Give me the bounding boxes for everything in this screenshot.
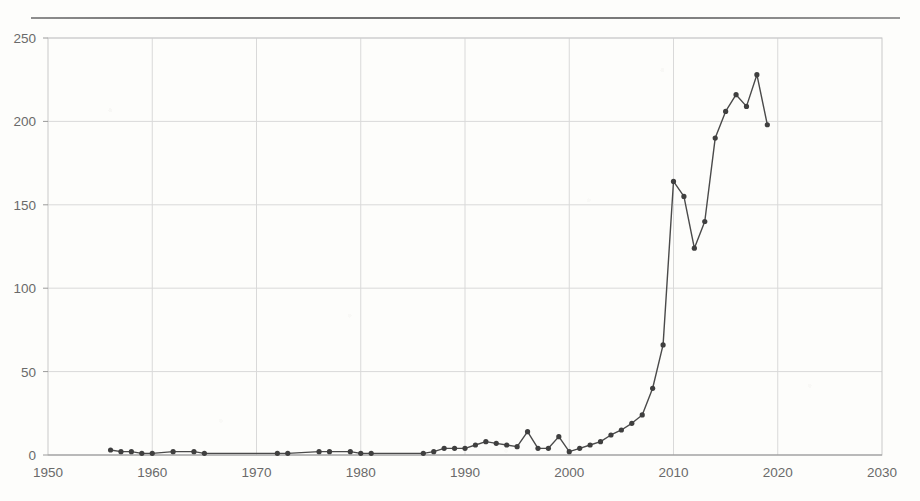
- data-point-marker: [285, 451, 290, 456]
- data-point-marker: [129, 449, 134, 454]
- data-point-marker: [577, 446, 582, 451]
- y-tick-label: 150: [13, 198, 36, 213]
- data-point-marker: [483, 439, 488, 444]
- x-tick-label: 1970: [241, 465, 271, 480]
- x-tick-label: 1950: [33, 465, 63, 480]
- data-point-marker: [462, 446, 467, 451]
- data-point-marker: [733, 92, 738, 97]
- data-point-marker: [671, 179, 676, 184]
- line-chart-figure: 050100150200250 195019601970198019902000…: [0, 0, 920, 501]
- y-tick-label: 0: [28, 448, 36, 463]
- data-point-marker: [316, 449, 321, 454]
- data-point-marker: [692, 246, 697, 251]
- data-point-marker: [556, 434, 561, 439]
- data-point-marker: [473, 442, 478, 447]
- y-tick-label: 100: [13, 281, 36, 296]
- x-tick-label: 1960: [137, 465, 167, 480]
- x-tick-label: 1980: [346, 465, 376, 480]
- x-tick-label: 2010: [658, 465, 688, 480]
- data-point-marker: [442, 446, 447, 451]
- data-point-marker: [619, 427, 624, 432]
- y-axis-tick-labels: 050100150200250: [13, 31, 48, 463]
- data-point-marker: [150, 451, 155, 456]
- data-point-marker: [515, 444, 520, 449]
- y-tick-label: 50: [21, 365, 36, 380]
- data-point-marker: [118, 449, 123, 454]
- data-point-marker: [754, 72, 759, 77]
- data-point-marker: [452, 446, 457, 451]
- x-tick-label: 2000: [554, 465, 584, 480]
- data-point-marker: [660, 342, 665, 347]
- data-point-marker: [640, 412, 645, 417]
- x-tick-label: 2020: [763, 465, 793, 480]
- data-point-marker: [431, 449, 436, 454]
- data-point-markers: [108, 72, 770, 456]
- y-tick-label: 200: [13, 114, 36, 129]
- data-point-marker: [608, 432, 613, 437]
- data-point-marker: [588, 442, 593, 447]
- data-point-marker: [421, 451, 426, 456]
- chart-canvas: 050100150200250 195019601970198019902000…: [0, 0, 920, 501]
- data-point-marker: [525, 429, 530, 434]
- data-point-marker: [504, 442, 509, 447]
- data-point-marker: [681, 194, 686, 199]
- x-tick-label: 2030: [867, 465, 897, 480]
- header-divider-rule: [31, 17, 900, 19]
- data-point-marker: [327, 449, 332, 454]
- data-point-marker: [629, 421, 634, 426]
- data-series-line: [111, 75, 768, 454]
- data-point-marker: [535, 446, 540, 451]
- data-point-marker: [723, 109, 728, 114]
- x-axis-tick-labels: 195019601970198019902000201020202030: [33, 465, 897, 480]
- data-point-marker: [494, 441, 499, 446]
- data-point-marker: [108, 447, 113, 452]
- data-point-marker: [202, 451, 207, 456]
- grid-lines: [48, 38, 882, 455]
- data-point-marker: [765, 122, 770, 127]
- data-point-marker: [191, 449, 196, 454]
- data-point-marker: [702, 219, 707, 224]
- data-point-marker: [546, 446, 551, 451]
- x-tick-label: 1990: [450, 465, 480, 480]
- data-point-marker: [139, 451, 144, 456]
- data-point-marker: [171, 449, 176, 454]
- data-point-marker: [369, 451, 374, 456]
- series-polyline: [111, 75, 768, 454]
- data-point-marker: [348, 449, 353, 454]
- y-tick-label: 250: [13, 31, 36, 46]
- data-point-marker: [744, 104, 749, 109]
- data-point-marker: [598, 439, 603, 444]
- data-point-marker: [713, 135, 718, 140]
- data-point-marker: [650, 386, 655, 391]
- data-point-marker: [567, 449, 572, 454]
- data-point-marker: [275, 451, 280, 456]
- data-point-marker: [358, 451, 363, 456]
